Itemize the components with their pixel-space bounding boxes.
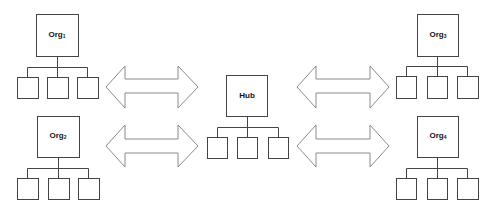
- org2-child-2: [49, 179, 70, 200]
- hub-tree: [208, 76, 289, 159]
- hub-child-3: [269, 138, 289, 159]
- org2-connector: [28, 158, 89, 179]
- org4-child-3: [458, 179, 479, 200]
- hub-label: Hub: [226, 91, 268, 101]
- double-arrow-hub-org3: [297, 66, 389, 108]
- org3-child-1: [397, 77, 417, 99]
- org4-child-2: [428, 179, 448, 200]
- org1-label-subscript: 1: [63, 33, 66, 39]
- org1-connector: [28, 57, 88, 78]
- org3-connector: [407, 57, 468, 77]
- org3-label-subscript: 3: [444, 33, 447, 39]
- org4-label-text: Org: [429, 131, 443, 140]
- org3-label: Org3: [417, 30, 459, 41]
- org2-label-subscript: 2: [64, 134, 67, 140]
- hub-child-1: [208, 138, 228, 159]
- double-arrow-org1-hub: [106, 66, 198, 108]
- org3-label-text: Org: [429, 30, 443, 39]
- org1-tree: [18, 15, 99, 99]
- org3-child-3: [458, 77, 479, 99]
- org4-tree: [397, 117, 479, 200]
- org2-label-text: Org: [49, 131, 63, 140]
- org4-child-1: [397, 179, 417, 200]
- org1-child-3: [78, 78, 99, 99]
- org4-label-subscript: 4: [444, 134, 447, 140]
- org2-label: Org2: [37, 131, 79, 142]
- org1-child-1: [18, 78, 39, 99]
- hub-connector: [218, 117, 279, 138]
- hub-child-2: [238, 138, 258, 159]
- hub-label-text: Hub: [239, 91, 255, 100]
- org1-label-text: Org: [48, 30, 62, 39]
- org2-tree: [18, 117, 100, 200]
- double-arrow-hub-org4: [297, 125, 389, 167]
- org3-tree: [397, 15, 479, 99]
- org2-child-3: [79, 179, 100, 200]
- org1-child-2: [48, 78, 69, 99]
- org2-child-1: [18, 179, 39, 200]
- org3-child-2: [428, 77, 448, 99]
- double-arrow-org2-hub: [106, 125, 198, 167]
- org4-connector: [407, 158, 468, 179]
- org1-label: Org1: [36, 30, 78, 41]
- org4-label: Org4: [417, 131, 459, 142]
